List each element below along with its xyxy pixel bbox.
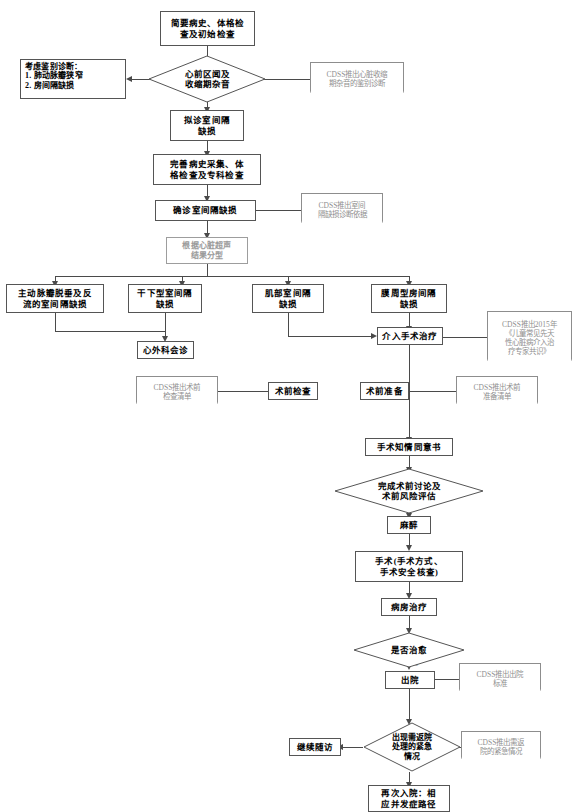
node-interventional-surgery[interactable]: 介入手术治疗 (377, 327, 443, 345)
connector-aortic-down (55, 313, 56, 331)
node-surgery-method-safety-check[interactable]: 手术(手术方式、 手术安全核查) (355, 551, 463, 582)
connector-type-bus (55, 276, 409, 277)
connector-cdss-consensus (443, 337, 487, 338)
node-line: 缺损 (279, 299, 297, 309)
node-line: 术前风险评估 (382, 491, 436, 501)
note-line: 期杂音的鉴别诊断 (329, 79, 385, 88)
node-line: 手术(手术方式、 (375, 556, 442, 566)
note-line: 检查清单 (163, 392, 191, 401)
node-line: 缺损 (198, 126, 216, 136)
note-line: 院的紧急情况 (480, 747, 522, 756)
node-line: 情况 (404, 752, 420, 761)
node-line: 出现需返院 (392, 733, 432, 742)
arrowhead (126, 76, 132, 82)
node-line: 手术知情同意书 (377, 442, 441, 452)
node-surgical-informed-consent[interactable]: 手术知情同意书 (365, 438, 453, 456)
node-line: 简要病史、体格检 (171, 18, 245, 28)
connector-muscular-down (288, 313, 289, 336)
note-cdss-vsd-diagnostic-criteria[interactable]: CDSS推出室间 隔缺损诊断依据 (301, 193, 383, 226)
node-line: 介入手术治疗 (382, 331, 437, 341)
node-line: 缺损 (400, 299, 418, 309)
node-line: 完善病史采集、体 (170, 159, 244, 169)
node-preoperative-preparation[interactable]: 术前准备 (360, 382, 409, 400)
node-classify-by-echocardiography[interactable]: 根据心脏超声 结果分型 (166, 237, 248, 264)
node-line: 格检查及专科检查 (170, 170, 244, 180)
node-line: 是否治愈 (391, 645, 427, 655)
node-line: 膜周型房间隔 (381, 288, 436, 298)
decision-emergency-return[interactable]: 出现需返院 处理的紧急 情况 (363, 722, 461, 772)
node-line: 拟诊室间隔 (184, 115, 230, 125)
node-line: 手术安全核查) (380, 567, 438, 577)
note-line: 准备清单 (483, 392, 511, 401)
connector-discharge-to-emergency (409, 689, 410, 722)
connector-cdss-confirm (256, 210, 301, 211)
node-line: 主动脉瓣脱垂及反 (18, 288, 92, 298)
node-continue-followup[interactable]: 继续随访 (289, 738, 341, 756)
note-line: 性心脏病介入治 (505, 338, 554, 347)
node-line: 流的室间隔缺损 (23, 299, 87, 309)
flowchart-canvas: 是 简要病史、体格检 查及初始检查 心前区闻及 收缩期杂音 考虑鉴别诊断： 1.… (0, 0, 579, 812)
note-cdss-emergency-return-conditions[interactable]: CDSS推出需返 院的紧急情况 (461, 731, 541, 762)
node-line: 肌部室间隔 (265, 288, 311, 298)
note-cdss-preop-exam-checklist[interactable]: CDSS推出术前 检查清单 (136, 376, 218, 407)
note-line: 《儿童常见先天 (505, 329, 554, 338)
node-preoperative-examination[interactable]: 术前检查 (268, 382, 318, 400)
node-line: 麻醉 (400, 520, 418, 530)
node-readmission-complication-pathway[interactable]: 再次入院：相 应并发症路径 (368, 785, 450, 812)
node-line: 查及初始检查 (180, 29, 235, 39)
note-line: CDSS推出室间 (319, 201, 366, 210)
node-line: 1. 肺动脉瓣狭窄 (25, 71, 83, 80)
connector-discharge-cdss (435, 679, 459, 680)
node-complete-history-exam[interactable]: 完善病史采集、体 格检查及专科检查 (153, 154, 261, 185)
connector-cdss-preop-exam (218, 391, 268, 392)
note-cdss-discharge-criteria[interactable]: CDSS推出出院 标准 (459, 663, 541, 694)
node-line: 2. 房间隔缺损 (25, 81, 75, 90)
node-type-aortic-valve-prolapse-vsd[interactable]: 主动脉瓣脱垂及反 流的室间隔缺损 (6, 284, 104, 313)
node-cardiac-surgery-consultation[interactable]: 心外科会诊 (137, 341, 194, 359)
node-differential-diagnosis[interactable]: 考虑鉴别诊断： 1. 肺动脉瓣狭窄 2. 房间隔缺损 (20, 59, 126, 99)
node-line: 缺损 (156, 299, 174, 309)
node-line: 应并发症路径 (381, 799, 436, 809)
note-line: CDSS推出术前 (474, 383, 521, 392)
node-line: 继续随访 (297, 742, 334, 752)
node-type-perimembranous-asd[interactable]: 膜周型房间隔 缺损 (371, 284, 447, 313)
node-discharge[interactable]: 出院 (385, 671, 435, 689)
connector-preop-prep-cdss (409, 391, 456, 392)
node-anesthesia[interactable]: 麻醉 (387, 516, 431, 534)
decision-is-cured[interactable]: 是否治愈 (353, 632, 465, 668)
node-suspected-vsd[interactable]: 拟诊室间隔 缺损 (170, 110, 244, 141)
node-confirmed-vsd[interactable]: 确诊室间隔缺损 (155, 200, 256, 221)
note-line: CDSS推出2015年 (502, 320, 557, 329)
node-line: 心前区闻及 (185, 69, 230, 79)
node-line: 完成术前讨论及 (378, 481, 441, 491)
connector-intervention-to-consent (409, 345, 410, 440)
connector-classify-to-bus (207, 264, 208, 276)
connector-emergency-to-followup (341, 747, 363, 748)
note-cdss-preop-prep-checklist[interactable]: CDSS推出术前 准备清单 (456, 376, 538, 407)
note-line: CDSS推出出院 (477, 670, 524, 679)
decision-precordial-murmur[interactable]: 心前区闻及 收缩期杂音 (148, 55, 266, 103)
node-ward-treatment[interactable]: 病房治疗 (381, 598, 437, 616)
node-line: 术前检查 (275, 386, 312, 396)
connector-aortic-right (55, 331, 165, 332)
node-line: 收缩期杂音 (185, 79, 230, 89)
node-type-subpulmonary-vsd[interactable]: 干下型室间隔 缺损 (128, 284, 202, 313)
node-initial-assessment[interactable]: 简要病史、体格检 查及初始检查 (160, 11, 255, 46)
note-cdss-murmur-differential[interactable]: CDSS推出心脏收缩 期杂音的鉴别诊断 (310, 62, 404, 96)
node-line: 根据心脏超声 (182, 241, 231, 250)
node-line: 干下型室间隔 (137, 288, 192, 298)
node-line: 确诊室间隔缺损 (173, 205, 237, 215)
node-line: 出院 (401, 675, 419, 685)
node-line: 术前准备 (366, 386, 403, 396)
node-line: 处理的紧急 (392, 742, 432, 751)
note-cdss-2015-consensus[interactable]: CDSS推出2015年 《儿童常见先天 性心脏病介入治 疗专家共识》 (487, 311, 572, 364)
decision-preop-discussion-risk[interactable]: 完成术前讨论及 术前风险评估 (334, 468, 484, 514)
node-type-muscular-vsd[interactable]: 肌部室间隔 缺损 (252, 284, 324, 313)
note-line: 标准 (493, 679, 507, 688)
note-line: 疗专家共识》 (508, 347, 550, 356)
note-line: CDSS推出术前 (154, 383, 201, 392)
node-line: 心外科会诊 (143, 345, 189, 355)
node-line: 病房治疗 (391, 602, 428, 612)
connector-muscular-right (288, 336, 374, 337)
node-line: 结果分型 (191, 251, 224, 260)
